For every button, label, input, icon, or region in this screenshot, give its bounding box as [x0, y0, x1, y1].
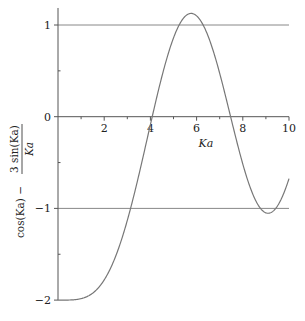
x-tick-label: 6	[193, 122, 200, 135]
y-ticks: 10−1−2	[35, 19, 61, 307]
y-axis-label-denominator: Ka	[23, 142, 35, 157]
x-tick-label: 10	[282, 122, 296, 135]
x-ticks: 246810	[81, 117, 296, 135]
x-tick-label: 8	[239, 122, 246, 135]
y-axis-label-numerator: 3 sin(Ka)	[8, 125, 20, 173]
x-axis-label: Ka	[197, 137, 213, 150]
y-tick-label: −2	[35, 294, 51, 307]
chart: 246810 10−1−2 Ka cos(Ka) − 3 sin(Ka) Ka	[0, 0, 305, 321]
function-curve	[58, 13, 289, 300]
y-tick-label: −1	[35, 202, 51, 215]
x-tick-label: 2	[101, 122, 108, 135]
y-tick-label: 1	[44, 19, 51, 32]
y-axis-label: cos(Ka) − 3 sin(Ka) Ka	[8, 124, 35, 238]
y-axis-label-left: cos(Ka) −	[14, 186, 26, 238]
y-tick-label: 0	[44, 111, 51, 124]
